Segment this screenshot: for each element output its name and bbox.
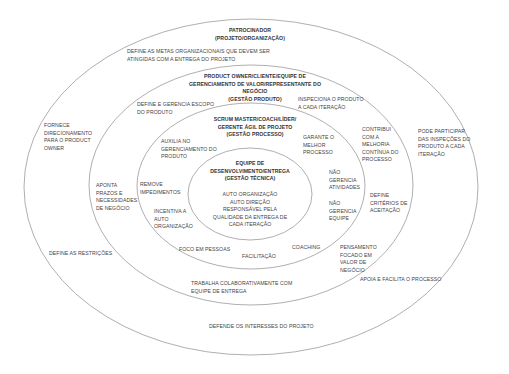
sm-best-process: GARANTE O MELHOR PROCESSO — [303, 134, 334, 157]
po-business-value: PENSAMENTO FOCADO EM VALOR DE NEGÓCIO — [340, 244, 377, 274]
dev-team-title: EQUIPE DE DESENVOLVIMENTO/ENTREGA (GESTÃ… — [210, 160, 290, 183]
po-continuous-improvement: CONTRIBUI COM A MELHORIA CONTÍNUA DO PRO… — [362, 126, 399, 164]
dev-team-responsibilities: AUTO ORGANIZAÇÃO AUTO DIREÇÃO RESPONSÁVE… — [210, 191, 290, 229]
scrum-master-title: SCRUM MASTER/COACH/LÍDER/ GERENTE ÁGIL D… — [205, 116, 305, 139]
sm-no-activities: NÃO GERENCIA ATIVIDADES — [329, 169, 360, 192]
sponsor-defends: DEFENDE OS INTERESSES DO PROJETO — [209, 323, 314, 331]
sm-self-organization: INCENTIVA A AUTO ORGANIZAÇÃO — [154, 208, 193, 231]
po-acceptance-criteria: DEFINE CRITÉRIOS DE ACEITAÇÃO — [370, 192, 408, 215]
sm-product-help: AUXILIA NO GERENCIAMENTO DO PRODUTO — [161, 138, 217, 161]
sponsor-inspections: PODE PARTICIPAR DAS INSPEÇÕES DO PRODUTO… — [418, 128, 470, 158]
sponsor-restrictions: DEFINE AS RESTRIÇÕES — [49, 250, 112, 258]
sm-removes-impediments: REMOVE IMPEDIMENTOS — [140, 181, 181, 196]
po-inspects: INSPECIONA O PRODUTO A CADA ITERAÇÃO — [298, 96, 363, 111]
sm-people-focus: FOCO EM PESSOAS — [179, 246, 230, 254]
sm-coaching: COACHING — [292, 244, 320, 252]
sm-no-team: NÃO GERENCIA EQUIPE — [329, 200, 357, 223]
sponsor-goals: DEFINE AS METAS ORGANIZACIONAIS QUE DEVE… — [127, 48, 270, 63]
sponsor-support: APOIA E FACILITA O PROCESSO — [360, 276, 441, 284]
po-collaborates: TRABALHA COLABORATIVAMENTE COM EQUIPE DE… — [191, 280, 292, 295]
sponsor-title: PATROCINADOR (PROJETO/ORGANIZAÇÃO) — [205, 27, 295, 42]
sponsor-direction: FORNECE DIRECIONAMENTO PARA O PRODUCT OW… — [44, 122, 92, 152]
po-deadlines: APONTA PRAZOS E NECESSIDADES DE NEGÓCIO — [96, 182, 137, 212]
po-scope: DEFINE E GERENCIA ESCOPO DO PRODUTO — [137, 101, 214, 116]
sm-facilitation: FACILITAÇÃO — [242, 253, 276, 261]
